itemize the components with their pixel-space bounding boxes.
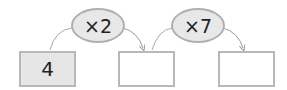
start-box: 4	[19, 51, 76, 87]
operator-label: ×2	[84, 15, 112, 37]
operator-oval-1: ×2	[71, 8, 125, 43]
arrow-2-out	[223, 28, 243, 48]
answer-box-2[interactable]	[218, 51, 275, 87]
operator-oval-2: ×7	[171, 8, 225, 43]
operator-label: ×7	[184, 15, 212, 37]
box-value: 4	[41, 57, 54, 81]
arrow-2-in	[152, 28, 172, 50]
arrow-1-in	[50, 28, 72, 50]
answer-box-1[interactable]	[118, 51, 175, 87]
arrow-1-out	[123, 28, 143, 48]
